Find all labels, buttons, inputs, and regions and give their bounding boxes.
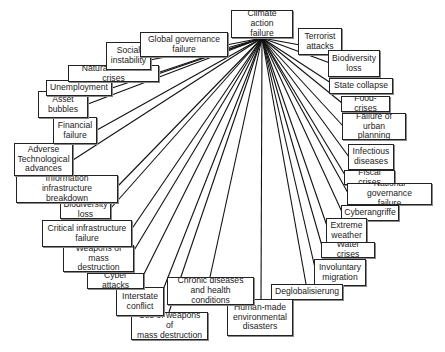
risk-node: Interstate conflict [116,287,164,316]
connector-n18 [143,38,262,276]
connector-n10 [262,38,327,226]
risk-node: Global governance failure [140,32,228,57]
risk-node: Biodiversity loss [60,201,111,219]
risk-node: Chronic diseases and health conditions [167,277,254,305]
risk-node: Failure of urban planning [342,113,406,140]
hub-node-climate-action-failure: Climate action failure [231,10,293,38]
risk-node: Financial failure [53,117,97,144]
risk-node: Information infrastructure breakdown [16,175,118,203]
risk-node: Critical infrastructure failure [42,220,132,247]
risk-node: National governance failure [347,183,432,205]
risk-node: Water crises [321,242,375,258]
connector-n16 [169,38,262,312]
connector-n14 [261,38,262,299]
risk-node: Weapons of mass destruction [63,245,134,272]
risk-node: Use of weapons of mass destruction [131,312,208,340]
risk-node: Food-crises [341,96,390,112]
connector-n11 [262,38,322,246]
risk-node: Biodiversity loss [328,50,380,77]
risk-node: State collapse [329,78,393,94]
risk-node: Unemployment [46,80,112,96]
risk-node: Extreme weather [326,218,367,244]
risk-node: Cyber attacks [87,273,144,289]
risk-node: Infectious diseases [348,144,394,170]
connector-n17 [163,38,262,290]
connector-n12 [262,38,315,268]
risk-node: Deglobalisierung [271,284,343,300]
risk-network-diagram: Terrorist attacksBiodiversity lossState … [0,0,445,352]
risk-node: Involuntary migration [314,259,366,286]
risk-node: Adverse Technological advances [14,143,73,176]
connector-n15 [210,38,262,277]
